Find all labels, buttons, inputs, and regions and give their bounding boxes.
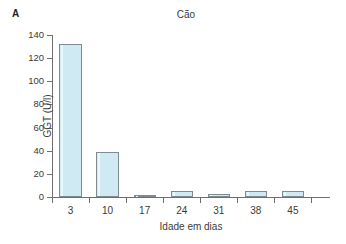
x-axis-tick-label: 3 bbox=[51, 205, 91, 216]
bar bbox=[245, 191, 267, 197]
x-axis-tick-label: 38 bbox=[236, 205, 276, 216]
x-axis-tick bbox=[237, 198, 238, 203]
x-axis-tick-label: 24 bbox=[162, 205, 202, 216]
y-axis-tick-label: 140 bbox=[4, 29, 44, 40]
y-axis-tick-label: 20 bbox=[4, 168, 44, 179]
bar bbox=[171, 191, 193, 197]
bar bbox=[59, 44, 81, 197]
x-axis-tick-label: 45 bbox=[273, 205, 313, 216]
x-axis-line bbox=[52, 197, 330, 198]
y-axis-tick-label: 0 bbox=[4, 191, 44, 202]
x-axis-tick bbox=[274, 198, 275, 203]
y-axis-tick-label: 40 bbox=[4, 145, 44, 156]
y-axis-tick-label: 60 bbox=[4, 122, 44, 133]
x-axis-tick bbox=[89, 198, 90, 203]
y-axis-title: GGT (U/l) bbox=[42, 94, 53, 137]
x-axis-tick-label: 17 bbox=[125, 205, 165, 216]
x-axis-tick-label: 10 bbox=[88, 205, 128, 216]
plot-area: GGT (U/l) bbox=[52, 35, 330, 197]
x-axis-tick bbox=[163, 198, 164, 203]
bar bbox=[208, 194, 230, 197]
x-axis-tick bbox=[311, 198, 312, 203]
chart-title: Cão bbox=[0, 9, 346, 20]
x-axis-tick bbox=[52, 198, 53, 203]
figure-panel: A Cão 020406080100120140 GGT (U/l) 31017… bbox=[0, 0, 346, 244]
x-axis-tick-label: 31 bbox=[199, 205, 239, 216]
x-axis-tick bbox=[200, 198, 201, 203]
x-axis-tick bbox=[126, 198, 127, 203]
y-axis-tick-label: 80 bbox=[4, 98, 44, 109]
x-axis-title: Idade em dias bbox=[52, 221, 330, 232]
y-axis-tick-label: 120 bbox=[4, 52, 44, 63]
bar bbox=[134, 195, 156, 197]
y-axis-tick-label: 100 bbox=[4, 75, 44, 86]
bar bbox=[282, 191, 304, 197]
bar bbox=[96, 152, 118, 197]
